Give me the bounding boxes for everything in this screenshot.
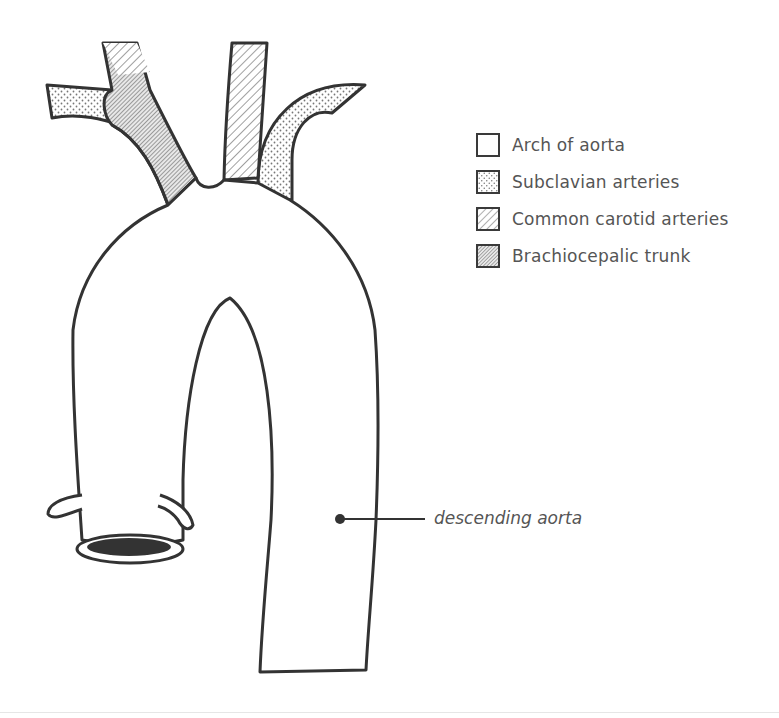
callout-label-descending-aorta: descending aorta — [434, 508, 582, 528]
right-coronary-stub — [48, 495, 82, 517]
legend-item-subclavian-arteries: Subclavian arteries — [476, 167, 680, 197]
dotted-square-icon — [476, 170, 500, 194]
arch-of-aorta — [73, 178, 378, 672]
legend-label: Common carotid arteries — [512, 209, 729, 229]
aorta-lumen — [87, 538, 171, 556]
legend-label: Subclavian arteries — [512, 172, 680, 192]
left-subclavian-artery — [258, 85, 365, 200]
left-common-carotid-artery — [224, 43, 267, 180]
legend-item-common-carotid-arteries: Common carotid arteries — [476, 204, 729, 234]
legend-label: Arch of aorta — [512, 135, 625, 155]
blank-square-icon — [476, 133, 500, 157]
dense-hatched-square-icon — [476, 244, 500, 268]
hatched-square-icon — [476, 207, 500, 231]
aorta-diagram — [0, 0, 779, 718]
bottom-divider — [0, 712, 779, 713]
legend-item-arch-of-aorta: Arch of aorta — [476, 130, 625, 160]
legend-label: Brachiocepalic trunk — [512, 246, 691, 266]
legend-item-brachiocephalic-trunk: Brachiocepalic trunk — [476, 241, 691, 271]
